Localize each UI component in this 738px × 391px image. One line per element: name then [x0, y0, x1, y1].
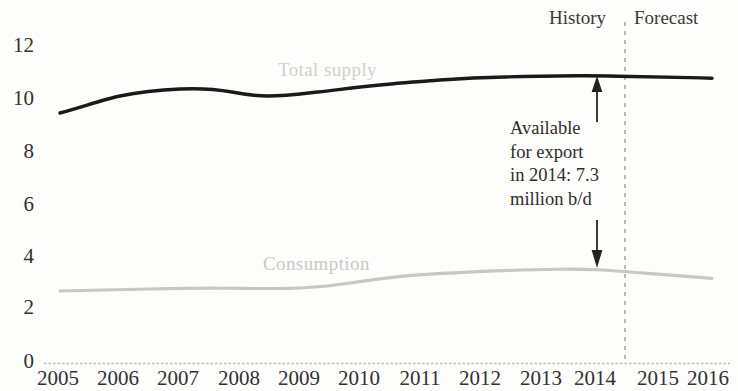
x-tick-2006: 2006 [88, 366, 148, 391]
annotation-arrow-down [592, 220, 603, 268]
series-line-consumption [60, 269, 712, 291]
y-tick-10: 10 [0, 86, 34, 111]
history-label: History [549, 7, 606, 29]
x-tick-2005: 2005 [28, 366, 88, 391]
y-tick-4: 4 [0, 244, 34, 269]
series-line-total-supply [60, 76, 712, 113]
y-tick-12: 12 [0, 33, 34, 58]
annotation-line-3: in 2014: 7.3 [510, 164, 599, 188]
x-tick-2009: 2009 [269, 366, 329, 391]
y-tick-2: 2 [0, 295, 34, 320]
annotation-line-2: for export [510, 141, 599, 165]
x-tick-2014: 2014 [565, 366, 625, 391]
x-tick-2012: 2012 [450, 366, 510, 391]
x-tick-2007: 2007 [148, 366, 208, 391]
x-tick-2011: 2011 [390, 366, 450, 391]
chart-container: 12 10 8 6 4 2 0 2005 2006 2007 2008 2009… [0, 0, 738, 391]
x-tick-2013: 2013 [511, 366, 571, 391]
available-for-export-annotation: Available for export in 2014: 7.3 millio… [510, 117, 599, 211]
y-tick-6: 6 [0, 192, 34, 217]
x-tick-2016: 2016 [678, 366, 738, 391]
annotation-arrow-up [592, 76, 603, 122]
annotation-line-4: million b/d [510, 188, 599, 212]
series-label-total-supply: Total supply [278, 59, 377, 81]
x-tick-2010: 2010 [329, 366, 389, 391]
forecast-label: Forecast [634, 7, 698, 29]
series-label-consumption: Consumption [263, 253, 370, 275]
y-tick-8: 8 [0, 139, 34, 164]
annotation-line-1: Available [510, 117, 599, 141]
x-tick-2008: 2008 [209, 366, 269, 391]
